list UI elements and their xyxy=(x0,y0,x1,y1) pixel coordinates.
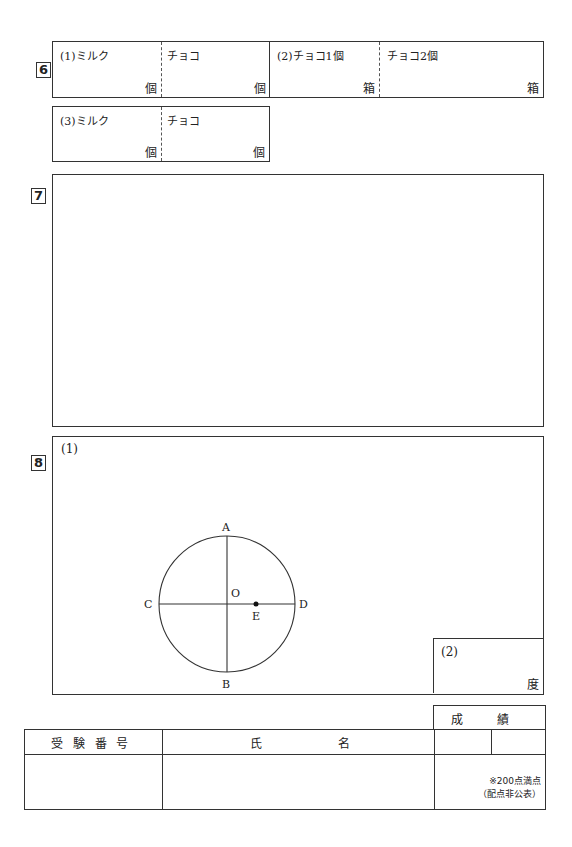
q6-1-choco-unit: 個 xyxy=(254,79,266,96)
q8-part2-answer-box[interactable]: (2) 度 xyxy=(433,638,543,693)
question-6-number: 6 xyxy=(36,62,51,78)
q6-1-milk-unit: 個 xyxy=(145,79,157,96)
q6-2-choco1-unit: 箱 xyxy=(363,79,375,96)
q6-3-milk-input[interactable] xyxy=(57,127,141,145)
q6-3-choco-input[interactable] xyxy=(165,127,249,145)
score-cell-1 xyxy=(435,730,491,754)
point-c-label: C xyxy=(144,598,152,611)
point-b-label: B xyxy=(222,678,230,691)
q6-row2-answer-box: (3)ミルク 個 チョコ 個 xyxy=(52,106,270,162)
q6-3-milk-cell[interactable]: (3)ミルク 個 xyxy=(53,107,161,161)
q6-2-choco1-input[interactable] xyxy=(274,62,358,80)
q8-part2-label: (2) xyxy=(441,645,458,659)
q6-2-choco1-cell[interactable]: (2)チョコ1個 箱 xyxy=(270,42,379,97)
q8-answer-box[interactable]: (1) A B C D O E (2) 度 xyxy=(52,436,544,695)
q6-row1-answer-box: (1)ミルク 個 チョコ 個 (2)チョコ1個 箱 チョコ2個 箱 xyxy=(52,41,544,98)
question-8-number: 8 xyxy=(31,455,46,471)
q7-answer-input[interactable] xyxy=(57,179,541,423)
q6-1-choco-label: チョコ xyxy=(167,47,200,63)
q6-1-milk-label: (1)ミルク xyxy=(60,47,109,63)
question-7-number: 7 xyxy=(31,188,46,204)
divider xyxy=(25,754,545,755)
score-header-char-1: 成 xyxy=(451,710,463,727)
q6-2-choco1-label: (2)チョコ1個 xyxy=(277,47,344,63)
q6-3-choco-unit: 個 xyxy=(253,143,265,160)
divider xyxy=(162,730,163,809)
circle-figure[interactable]: A B C D O E xyxy=(123,517,323,697)
score-cell-2 xyxy=(492,730,545,754)
q6-3-milk-unit: 個 xyxy=(145,143,157,160)
q6-2-choco2-cell[interactable]: チョコ2個 箱 xyxy=(379,42,542,97)
q8-part2-input[interactable] xyxy=(438,661,522,679)
q6-1-choco-cell[interactable]: チョコ 個 xyxy=(161,42,269,97)
point-d-label: D xyxy=(299,598,308,611)
q8-part1-label: (1) xyxy=(61,442,78,456)
point-a-label: A xyxy=(221,521,231,534)
exam-number-input[interactable] xyxy=(29,758,161,806)
q6-2-choco2-unit: 箱 xyxy=(527,79,539,96)
score-note-undisclosed: （配点非公表） xyxy=(478,787,541,800)
name-header-char-1: 氏 xyxy=(250,734,262,751)
q7-answer-box[interactable] xyxy=(52,174,544,427)
q6-3-milk-label: (3)ミルク xyxy=(60,112,109,128)
applicant-info-table: 受 験 番 号 氏 名 ※200点満点 （配点非公表） xyxy=(24,729,546,810)
exam-number-header: 受 験 番 号 xyxy=(51,734,128,751)
q6-2-choco2-label: チョコ2個 xyxy=(387,47,438,63)
score-header-char-2: 績 xyxy=(497,710,509,727)
q6-1-milk-input[interactable] xyxy=(57,62,141,80)
name-input[interactable] xyxy=(167,758,433,806)
q6-1-milk-cell[interactable]: (1)ミルク 個 xyxy=(53,42,161,97)
q6-3-choco-label: チョコ xyxy=(167,112,200,128)
point-o-label: O xyxy=(231,587,240,600)
q6-1-choco-input[interactable] xyxy=(165,62,249,80)
name-header-char-2: 名 xyxy=(338,734,350,751)
q8-part2-unit: 度 xyxy=(527,675,539,692)
score-note-total: ※200点満点 xyxy=(489,774,541,787)
score-header: 成 績 xyxy=(433,705,546,730)
q6-2-choco2-input[interactable] xyxy=(383,62,507,80)
q6-3-choco-cell[interactable]: チョコ 個 xyxy=(161,107,268,161)
point-e-label: E xyxy=(252,610,260,623)
